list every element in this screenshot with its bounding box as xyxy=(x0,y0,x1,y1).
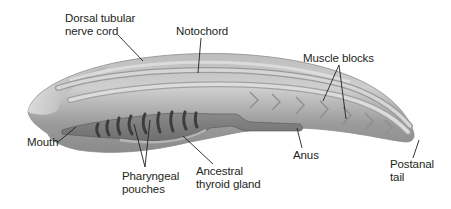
chordate-diagram: Dorsal tubular nerve cord Notochord Musc… xyxy=(0,0,451,209)
label-muscle-blocks: Muscle blocks xyxy=(303,52,374,65)
label-anus: Anus xyxy=(293,149,319,162)
label-notochord: Notochord xyxy=(176,25,228,38)
label-dorsal-nerve-cord: Dorsal tubular nerve cord xyxy=(65,12,135,38)
label-mouth: Mouth xyxy=(27,136,58,149)
label-pharyngeal-pouches: Pharyngeal pouches xyxy=(122,170,179,196)
label-postanal-tail: Postanal tail xyxy=(390,158,434,184)
label-ancestral-thyroid-gland: Ancestral thyroid gland xyxy=(196,165,261,191)
